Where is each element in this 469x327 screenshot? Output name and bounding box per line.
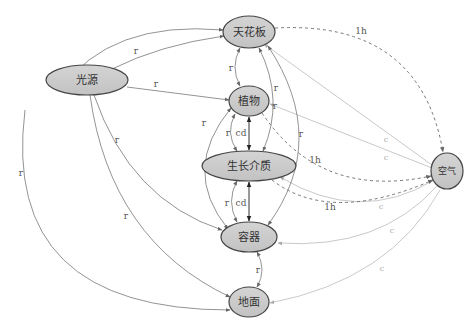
edge-ceiling-plant — [235, 48, 240, 86]
edge-label-1h: 1h — [309, 155, 321, 165]
edge-label-r: r — [202, 118, 207, 128]
node-label: 天花板 — [233, 25, 266, 39]
edge-air-ceiling — [264, 44, 432, 165]
edge-label-r: r — [256, 265, 261, 275]
node-ground: 地面 — [229, 287, 269, 317]
node-plant: 植物 — [229, 86, 269, 116]
heat-transfer-diagram: c c c c c 1h 1h r r r r r — [0, 0, 469, 327]
edge-label-1h: 1h — [324, 202, 336, 212]
edge-label-c: c — [379, 202, 384, 211]
edge-label-r: r — [299, 129, 304, 139]
edge-medium-air — [272, 180, 433, 203]
edge-label-r: r — [229, 63, 234, 73]
edge-label-r: r — [274, 83, 279, 93]
edge-label-1h: 1h — [355, 26, 367, 36]
edge-label-r: r — [19, 168, 24, 178]
node-light: 光源 — [46, 65, 128, 95]
edge-label-cd: cd — [236, 128, 247, 138]
edge-label-cd: cd — [236, 198, 247, 208]
node-medium: 生长介质 — [202, 151, 296, 181]
edge-ceiling-container — [268, 46, 299, 225]
node-label: 生长介质 — [227, 159, 271, 173]
edge-air-medium — [280, 177, 434, 202]
node-ceiling: 天花板 — [223, 16, 275, 48]
node-label: 空气 — [438, 165, 456, 176]
edge-label-r: r — [226, 128, 231, 138]
node-air: 空气 — [431, 153, 463, 189]
edge-light-plant — [127, 87, 229, 100]
node-container: 容器 — [221, 222, 277, 252]
edge-label-c: c — [380, 264, 385, 273]
edge-air-container — [278, 186, 437, 244]
edge-label-r: r — [225, 198, 230, 208]
edge-label-r: r — [134, 46, 139, 56]
edge-label-c: c — [384, 135, 389, 144]
edge-label-c: c — [390, 226, 395, 235]
node-label: 植物 — [238, 94, 260, 108]
edge-label-r: r — [273, 101, 278, 111]
humidity-edges: 1h 1h — [262, 26, 443, 212]
edge-air-plant — [270, 104, 432, 168]
node-label: 容器 — [238, 230, 260, 244]
node-label: 地面 — [238, 296, 260, 309]
edge-label-r: r — [154, 79, 159, 89]
edge-label-c: c — [384, 153, 389, 162]
node-label: 光源 — [76, 73, 98, 87]
edge-light-ceiling — [112, 36, 224, 69]
edge-label-r: r — [124, 211, 129, 221]
edge-label-r: r — [115, 135, 120, 145]
